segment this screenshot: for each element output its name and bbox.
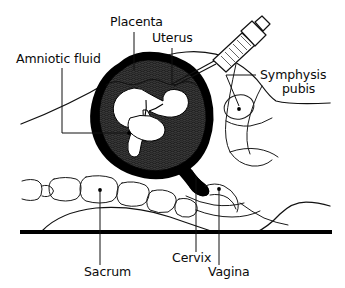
- sacrum-vertebrae: [22, 176, 197, 217]
- label-amniotic-fluid: Amniotic fluid: [16, 51, 101, 66]
- figure-root: Amniotic fluid Placenta Uterus Symphysis…: [0, 0, 345, 288]
- anatomy-diagram: Amniotic fluid Placenta Uterus Symphysis…: [0, 0, 345, 288]
- label-symphysis-pubis-line1: Symphysis: [260, 67, 326, 82]
- label-vagina: Vagina: [208, 264, 250, 279]
- label-cervix: Cervix: [172, 250, 211, 265]
- label-symphysis-pubis-line2: pubis: [282, 81, 315, 96]
- perineum-contour: [186, 196, 330, 233]
- label-uterus: Uterus: [152, 30, 193, 45]
- examination-table: [20, 207, 332, 232]
- label-sacrum: Sacrum: [84, 264, 131, 279]
- label-placenta: Placenta: [110, 14, 163, 29]
- leader-dot-amniotic-fluid: [127, 131, 131, 135]
